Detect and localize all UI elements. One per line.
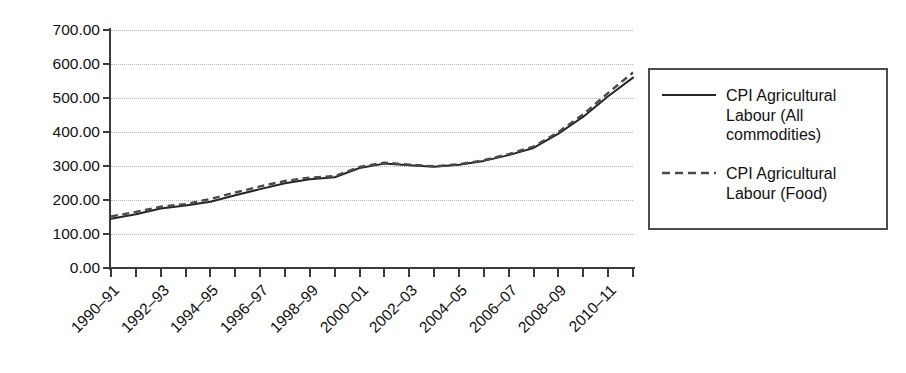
legend-dashed-line-icon <box>660 164 718 182</box>
line-chart: 0.00100.00200.00300.00400.00500.00600.00… <box>0 0 906 373</box>
series-line-food <box>111 73 633 217</box>
legend-solid-line-icon <box>660 86 718 104</box>
legend: CPI Agricultural Labour (All commodities… <box>648 68 888 230</box>
legend-label-all-commodities: CPI Agricultural Labour (All commodities… <box>726 86 882 145</box>
series-line-all-commodities <box>111 78 633 219</box>
legend-item-all-commodities: CPI Agricultural Labour (All commodities… <box>660 86 882 145</box>
legend-item-food: CPI Agricultural Labour (Food) <box>660 164 882 203</box>
legend-label-food: CPI Agricultural Labour (Food) <box>726 164 882 203</box>
